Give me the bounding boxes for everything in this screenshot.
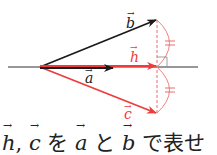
caption-rest: で表せ [142,131,205,155]
equal-mark-upper [165,41,175,45]
lower-arc [157,67,170,113]
vector-diagram: b → h → a → c → [0,0,217,125]
vector-c [40,67,156,113]
svg-text:→: → [130,42,138,52]
caption-sep: , [16,131,23,155]
question-caption: h, c を a と b で表せ [2,126,217,155]
caption-vec-b: b [122,131,135,155]
caption-vec-c: c [29,131,41,155]
svg-text:→: → [127,8,135,18]
caption-vec-h: h [2,131,16,155]
svg-text:→: → [85,65,93,75]
svg-text:→: → [124,101,132,111]
caption-wo: を [47,131,68,155]
caption-vec-a: a [75,131,88,155]
caption-to: と [94,131,115,155]
upper-arc [157,20,170,67]
